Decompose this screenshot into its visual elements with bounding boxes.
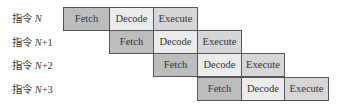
- label-prefix: 指令: [12, 13, 35, 24]
- row1-execute-stage: Execute: [197, 30, 242, 54]
- row0-fetch-stage: Fetch: [63, 7, 110, 31]
- row0-decode-stage: Decode: [109, 7, 154, 31]
- label-prefix: 指令: [12, 37, 35, 48]
- label-prefix: 指令: [12, 84, 35, 95]
- label-var: N: [35, 13, 42, 24]
- stage-text: Fetch: [75, 13, 98, 24]
- instruction-label-n-plus-1: 指令 N+1: [12, 31, 53, 55]
- row3-fetch-stage: Fetch: [197, 77, 242, 101]
- label-suffix: +1: [42, 37, 53, 48]
- instruction-label-n: 指令 N: [12, 7, 42, 31]
- row0-execute-stage: Execute: [153, 7, 198, 31]
- row1-decode-stage: Decode: [153, 30, 198, 54]
- stage-text: Fetch: [208, 83, 231, 94]
- stage-text: Decode: [159, 36, 191, 47]
- label-var: N: [35, 60, 42, 71]
- stage-text: Execute: [246, 59, 280, 70]
- row3-decode-stage: Decode: [241, 77, 285, 101]
- label-suffix: +2: [42, 60, 53, 71]
- row2-fetch-stage: Fetch: [153, 53, 198, 77]
- stage-text: Decode: [247, 83, 279, 94]
- instruction-label-n-plus-3: 指令 N+3: [12, 78, 53, 102]
- row2-execute-stage: Execute: [241, 53, 285, 77]
- row2-decode-stage: Decode: [197, 53, 242, 77]
- stage-text: Decode: [203, 59, 235, 70]
- row3-execute-stage: Execute: [284, 77, 329, 101]
- stage-text: Execute: [203, 36, 237, 47]
- label-var: N: [35, 84, 42, 95]
- stage-text: Fetch: [164, 59, 187, 70]
- stage-text: Decode: [115, 13, 147, 24]
- stage-text: Execute: [159, 13, 193, 24]
- row1-fetch-stage: Fetch: [109, 30, 154, 54]
- stage-text: Execute: [290, 83, 324, 94]
- label-prefix: 指令: [12, 60, 35, 71]
- label-suffix: +3: [42, 84, 53, 95]
- stage-text: Fetch: [120, 36, 143, 47]
- instruction-label-n-plus-2: 指令 N+2: [12, 54, 53, 78]
- label-var: N: [35, 37, 42, 48]
